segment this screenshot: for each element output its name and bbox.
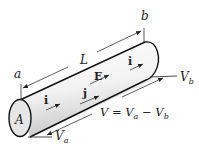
potential-difference-equation: V = Va − Vb: [100, 105, 169, 121]
conductor-diagram: A a b L i i j E Vb Va V = Va − Vb: [0, 0, 199, 153]
field-label: E: [94, 70, 102, 83]
current-label-1: i: [44, 94, 48, 107]
vb-label: Vb: [180, 70, 194, 86]
area-label: A: [14, 113, 24, 127]
end-b-label: b: [141, 9, 149, 23]
end-a-label: a: [14, 67, 21, 81]
current-label-2: i: [128, 55, 132, 68]
va-label: Va: [55, 129, 69, 145]
vb-lead: [150, 76, 177, 77]
current-density-label: j: [82, 87, 87, 100]
length-label: L: [79, 53, 88, 67]
